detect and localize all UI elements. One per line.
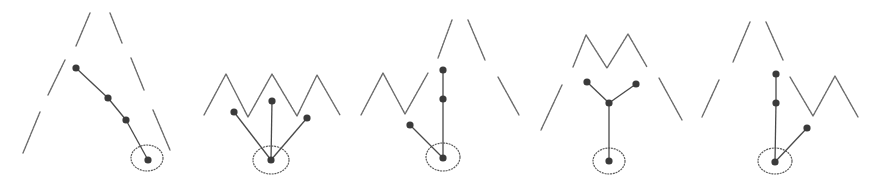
panel-5	[702, 22, 858, 174]
panel-2	[204, 74, 340, 174]
chain-node	[632, 80, 639, 87]
panel-4	[541, 34, 682, 174]
contour-segment	[48, 60, 65, 95]
chain-node	[267, 156, 274, 163]
chain-node	[104, 94, 111, 101]
contour-segment	[541, 85, 562, 130]
contour-segment	[702, 80, 719, 117]
chain-edge	[271, 101, 272, 160]
chain-edge	[587, 82, 609, 103]
chain-node	[772, 70, 779, 77]
chain-node	[439, 95, 446, 102]
chain-node	[122, 116, 129, 123]
diagram-canvas	[0, 0, 878, 190]
contour-segment	[153, 110, 170, 150]
contour-segment	[790, 76, 858, 117]
panel-3	[361, 20, 519, 171]
contour-segment	[733, 22, 750, 62]
contour-segment	[131, 58, 144, 90]
panel-1	[23, 13, 170, 171]
chain-edge	[234, 112, 271, 160]
contour-segment	[468, 20, 485, 60]
chain-node	[144, 156, 151, 163]
contour-segment	[659, 78, 682, 120]
chain-edge	[271, 118, 307, 160]
chain-node	[772, 99, 779, 106]
chain-node	[771, 158, 778, 165]
contour-segment	[23, 112, 40, 153]
chain-node	[303, 114, 310, 121]
contour-segment	[76, 13, 90, 46]
contour-segment	[766, 22, 783, 60]
chain-edge	[76, 68, 108, 98]
chain-node	[605, 99, 612, 106]
contour-segment	[438, 20, 452, 58]
chain-node	[439, 66, 446, 73]
chain-edge	[609, 84, 636, 103]
chain-node	[268, 97, 275, 104]
chain-edge	[410, 125, 443, 158]
chain-node	[803, 124, 810, 131]
chain-node	[583, 78, 590, 85]
contour-segment	[573, 34, 647, 68]
contour-segment	[110, 13, 122, 43]
chain-node	[406, 121, 413, 128]
chain-node	[230, 108, 237, 115]
chain-edge	[126, 120, 148, 160]
contour-segment	[361, 73, 428, 115]
chain-node	[439, 154, 446, 161]
chain-node	[605, 157, 612, 164]
chain-edge	[108, 98, 126, 120]
chain-edge	[775, 103, 776, 162]
contour-segment	[498, 77, 519, 115]
chain-node	[72, 64, 79, 71]
diagram-stage	[0, 0, 878, 190]
